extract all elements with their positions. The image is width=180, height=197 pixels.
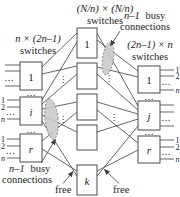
vdots: ⋮ (59, 114, 68, 124)
hdots: … (144, 91, 154, 102)
vdots: ⋮ (110, 112, 119, 122)
busy-bottom-word: busy (30, 163, 51, 174)
input-stage-header: n × (2n–1) switches (15, 33, 61, 56)
port-label: n (1, 115, 5, 124)
input-box-r-label: r (29, 143, 34, 155)
port-label: n (1, 154, 5, 163)
hdots: … (26, 124, 36, 135)
switch-box-middle-4 (77, 125, 97, 150)
hdots: … (161, 76, 171, 87)
busy-arrow-top (111, 31, 121, 46)
hdots: … (161, 146, 171, 157)
free-arrow-left (63, 172, 73, 184)
busy-arrow-bottom (41, 140, 56, 164)
input-box-i-label: i (29, 106, 32, 118)
input-port-labels-box-i: 1 2 n (1, 96, 5, 124)
output-box-r-label: r (147, 144, 152, 156)
vdots: ⋮ (105, 73, 114, 83)
free-label-right: free (113, 184, 130, 195)
busy-connections-ellipse-right (100, 41, 115, 75)
busy-connections-ellipse-left (43, 98, 60, 139)
busy-bottom-var: n–1 (9, 163, 25, 174)
output-box-1-label: 1 (146, 74, 152, 86)
diagram-canvas: 1 i r 1 k 1 j r 1 2 n 1 2 n 1 2 n 1 2 n … (0, 0, 180, 197)
busy-annotation-bottom: n–1 busy connections (2, 163, 52, 185)
hdots: … (161, 112, 171, 123)
input-port-labels-box-r: 1 2 n (1, 135, 5, 163)
busy-top-word: busy (145, 10, 166, 21)
port-label: n (176, 86, 180, 95)
svg-text:n–1 busy: n–1 busy (124, 10, 166, 21)
port-label: 2 (1, 103, 5, 112)
port-label: 2 (176, 143, 180, 152)
hdots: … (26, 87, 36, 98)
port-label: 2 (1, 142, 5, 151)
busy-top-var: n–1 (124, 10, 140, 21)
port-label: 2 (176, 72, 180, 81)
output-stage-size-label: (2n–1) × n (127, 39, 173, 51)
output-stage-switches-label: switches (132, 51, 168, 62)
busy-bottom-line2: connections (2, 174, 52, 185)
output-port-labels-box-r: 1 2 n (176, 136, 180, 164)
input-stage-switches-label: switches (20, 45, 56, 56)
output-stage-header: (2n–1) × n switches (127, 39, 173, 62)
svg-text:n–1 busy: n–1 busy (9, 163, 51, 174)
hdots: … (6, 145, 16, 156)
free-arrow-right (105, 170, 120, 184)
clos-network-diagram: 1 i r 1 k 1 j r 1 2 n 1 2 n 1 2 n 1 2 n … (0, 0, 180, 197)
input-stage-size-label: n × (2n–1) (15, 33, 61, 45)
busy-top-line2: connections (120, 21, 170, 32)
busy-annotation-top: n–1 busy connections (120, 10, 170, 32)
output-port-labels-box-1: 1 2 n (176, 66, 180, 95)
hdots: … (4, 72, 14, 83)
middle-box-1-label: 1 (84, 38, 90, 50)
switch-box-middle-3 (77, 94, 97, 120)
middle-stage-switches-label: switches (87, 15, 123, 26)
vdots: ⋮ (59, 74, 68, 84)
hdots: … (144, 126, 154, 137)
switch-box-middle-2 (77, 63, 97, 89)
hdots: … (6, 106, 16, 117)
input-box-1-label: 1 (28, 71, 34, 83)
port-label: n (176, 155, 180, 164)
free-label-left: free (55, 184, 72, 195)
